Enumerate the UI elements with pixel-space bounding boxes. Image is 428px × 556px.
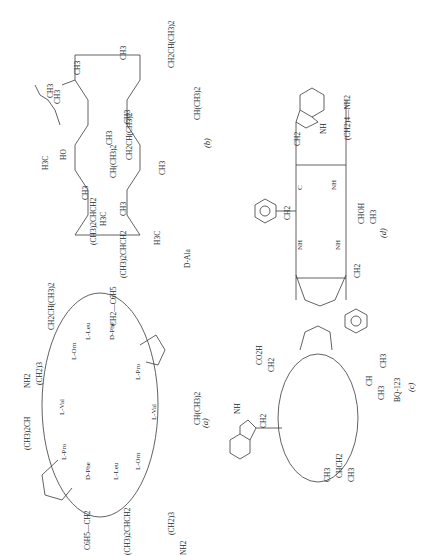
panel-c-compound-name: BQ-123 [393,378,402,402]
panel-a-residue-l-pro-2: L-Pro [60,443,68,460]
panel-d-group-ch24-nh2: (CH2)4—NH2 [343,95,352,140]
panel-a-residue-l-val-1: L-Val [58,399,66,415]
panel-d-phenyl-top [255,199,276,223]
chemical-structures-figure: H3C HO CH3 CH3 CH3 CH(CH3)2 CH3 (CH3)2CH… [0,0,428,556]
panel-a-pro-ring-upper [140,335,165,365]
panel-c-pro-ring [300,326,332,350]
panel-a-residue-l-orn-2: L-Orn [134,452,142,470]
panel-c-group-ch2-a: CH2 [267,358,276,372]
panel-d: NH CH2 CH2 (CH2)4—NH2 CHOH CH3 CH2 C NH … [255,88,388,333]
panel-b-group-ch32chch2-b: (CH3)2CHCH2 [119,230,128,278]
panel-c-group-ch: CH [365,375,374,386]
panel-d-pyrrolidine [296,275,346,306]
panel-c-group-co2h: CO2H [255,345,264,365]
panel-b-group-chch32-b: CH(CH3)2 [193,86,202,120]
panel-a-group-ch23-bottom: (CH2)3 [167,512,176,535]
panel-d-group-nh: NH [319,123,328,134]
panel-d-group-ch2-b: CH2 [283,206,292,220]
panel-b-group-ho: HO [59,149,68,160]
panel-b-group-ch3-f: CH3 [158,161,167,175]
panel-a-residue-l-pro-1: L-Pro [134,363,142,380]
panel-a-group-ch2chch32: CH2CH(CH3)2 [47,282,56,330]
panel-d-phenyl-bottom-ring [351,316,361,326]
panel-d-backbone-nh-b: NH [296,240,304,250]
panel-d-backbone-nh-a: NH [330,180,338,190]
panel-d-indole-benzene [300,88,324,117]
panel-a-group-nh2-bottom: NH2 [179,540,188,555]
panel-d-phenyl-bottom [345,309,367,333]
panel-a-residue-d-phe-2: D-Phe [84,462,92,480]
panel-b-bond-methyl [62,80,75,85]
panel-c-group-ch2-b: CH2 [259,414,268,428]
panel-a-caption: (a) [200,418,210,428]
panel-a-group-ch2-c6h5: CH2—C6H5 [109,286,118,326]
panel-b-residue-note: D-Ala [183,249,192,268]
panel-b-group-h3c-a: H3C [99,212,108,226]
panel-c-indole-benzene [230,434,250,459]
panel-a-group-c6h5-ch2: C6H5—CH2 [83,510,92,550]
panel-b-group-ch3-i: CH3 [73,61,82,75]
panel-a-residue-l-val-2: L-Val [150,404,158,420]
panel-b-group-h3c-top: H3C [41,156,50,170]
panel-a-residue-l-leu-2: L-Leu [112,462,120,480]
panel-c-indole-pyrrole [240,420,256,440]
panel-a-group-ch32ch: (CH3)2CH [23,416,32,450]
panel-c-group-ch3-a: CH3 [379,354,388,368]
panel-a-residue-l-leu-1: L-Leu [84,322,92,340]
panel-b-group-chch32-a: CH(CH3)2 [109,144,118,178]
panel-d-phenyl-top-ring [260,206,270,216]
panel-c-group-nh: NH [233,403,242,414]
panel-c-group-chch2: CHCH2 [335,453,344,478]
panel-c-group-ch3-b: CH3 [377,386,386,400]
panel-d-group-ch3: CH3 [369,210,378,224]
panel-a-group-ch32chch2: (CH3)2CHCH2 [123,507,132,555]
panel-a-group-ch23-top: (CH2)3 [35,362,44,385]
panel-c-group-ch3-d: CH3 [347,468,356,482]
panel-b-group-h3c-b: H3C [153,231,162,245]
panel-b-bond-left [75,55,88,235]
panel-a: L-Val L-Orn L-Leu D-Phe L-Pro L-Val L-Or… [23,282,210,555]
panel-b-group-ch3-g: CH3 [123,110,132,124]
panel-c: CO2H CH2 CH2 NH CH3 CH CH3 CH3 CHCH2 CH3… [230,326,416,482]
panel-d-group-ch2-a: CH2 [293,132,302,146]
panel-b-group-ch3-b: CH3 [53,90,62,104]
panel-d-group-choh: CHOH [357,202,366,224]
panel-b-caption: (b) [202,138,212,148]
panel-b-group-ch2chch32-b: CH2CH(CH3)2 [167,20,176,68]
panel-a-residue-l-orn-1: L-Orn [70,342,78,360]
panel-d-caption: (d) [378,228,388,238]
panel-c-caption: (c) [406,382,416,392]
panel-b-group-ch3-e: CH3 [119,202,128,216]
panel-b-group-ch3-h: CH3 [119,46,128,60]
panel-c-group-ch3-c: CH3 [323,468,332,482]
panel-b: H3C HO CH3 CH3 CH3 CH(CH3)2 CH3 (CH3)2CH… [35,20,212,278]
panel-a-group-nh2-top: NH2 [23,373,32,388]
panel-d-backbone-c-o-a: C [296,185,304,190]
panel-c-ring [278,354,358,482]
panel-d-backbone-nh-c: NH [334,240,342,250]
panel-d-indole-pyrrole [296,110,318,128]
panel-b-group-ch3-c: CH3 [105,131,114,145]
panel-d-group-ch2-c: CH2 [353,264,362,278]
panel-b-group-ch32chch2-a: (CH3)2CHCH2 [89,197,98,245]
